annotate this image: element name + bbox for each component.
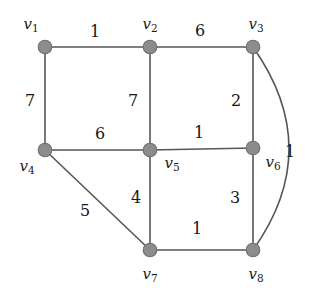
- edge-weight-v6-v8: 3: [230, 190, 240, 206]
- vertex-label-v3: v3: [248, 17, 263, 33]
- vertex-label-subscript-v8: 8: [257, 272, 264, 284]
- vertex-label-v4: v4: [19, 159, 34, 175]
- edge-weight-v2-v5: 7: [128, 93, 138, 109]
- edge-weight-v3-v8: 1: [285, 144, 295, 160]
- vertex-label-subscript-v5: 5: [173, 161, 180, 173]
- vertex-label-subscript-v2: 2: [151, 22, 158, 34]
- graph-figure: 167726154311v1v2v3v4v5v6v7v8: [0, 0, 327, 300]
- graph-vertex-v4: [38, 143, 52, 157]
- edge-weight-v3-v6: 2: [231, 93, 241, 109]
- edge-weight-v1-v4: 7: [25, 93, 35, 109]
- edge-weight-v5-v6: 1: [194, 125, 204, 141]
- vertex-label-v1: v1: [23, 17, 38, 33]
- edge-weight-v2-v3: 6: [195, 23, 205, 39]
- vertex-label-subscript-v7: 7: [151, 272, 158, 284]
- graph-vertex-v2: [143, 40, 157, 54]
- graph-edge-v5-v6: [150, 148, 253, 150]
- edge-weight-v4-v7: 5: [80, 203, 90, 219]
- vertex-label-subscript-v4: 4: [28, 164, 35, 176]
- graph-canvas: [0, 0, 327, 300]
- vertex-label-subscript-v6: 6: [274, 160, 281, 172]
- edge-weight-v5-v7: 4: [131, 190, 141, 206]
- vertex-label-v2: v2: [142, 17, 157, 33]
- vertex-label-subscript-v3: 3: [257, 22, 264, 34]
- vertex-label-v8: v8: [248, 267, 263, 283]
- graph-vertex-v6: [246, 141, 260, 155]
- vertex-label-subscript-v1: 1: [32, 22, 39, 34]
- vertex-label-v6: v6: [265, 155, 280, 171]
- graph-vertex-v8: [246, 243, 260, 257]
- edge-weight-v4-v5: 6: [95, 126, 105, 142]
- graph-vertex-v7: [143, 243, 157, 257]
- vertex-label-v5: v5: [164, 156, 179, 172]
- edge-weight-v1-v2: 1: [90, 24, 100, 40]
- graph-vertex-v5: [143, 143, 157, 157]
- vertex-label-v7: v7: [142, 267, 157, 283]
- edge-weight-v7-v8: 1: [192, 221, 202, 237]
- graph-vertex-v3: [246, 40, 260, 54]
- graph-vertex-v1: [38, 40, 52, 54]
